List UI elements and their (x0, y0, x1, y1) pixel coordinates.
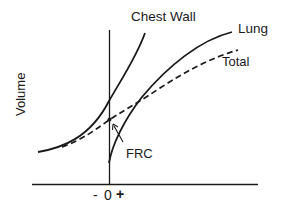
x-tick-zero: 0 (104, 188, 112, 202)
chest-wall-label: Chest Wall (131, 10, 196, 24)
x-tick-minus: - (93, 188, 98, 202)
frc-point (108, 118, 112, 122)
x-tick-plus: + (116, 187, 124, 201)
lung-curve (109, 32, 232, 163)
frc-label: FRC (126, 147, 153, 160)
total-curve (62, 50, 238, 147)
pressure-volume-diagram: Chest Wall Lung Total FRC Volume - 0 + (0, 0, 285, 207)
chest-wall-curve (38, 33, 145, 152)
y-axis-label: Volume (14, 73, 27, 116)
total-label: Total (222, 55, 249, 68)
lung-label: Lung (238, 22, 268, 36)
